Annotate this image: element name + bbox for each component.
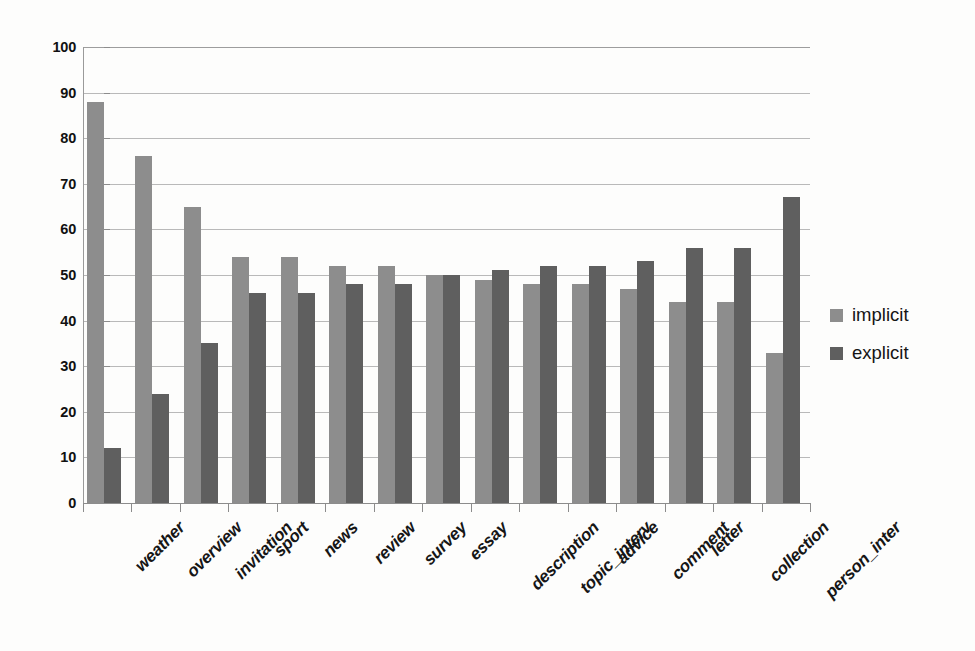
x-label-letter: letter xyxy=(706,518,748,560)
bar-group-overview xyxy=(131,47,179,503)
y-tick-label-80: 80 xyxy=(60,130,76,146)
x-tick-letter xyxy=(665,504,666,512)
legend-item-explicit[interactable]: explicit xyxy=(830,334,970,372)
x-tick-advice xyxy=(568,504,569,512)
bar-explicit-news[interactable] xyxy=(298,293,315,503)
x-label-review: review xyxy=(370,518,420,568)
y-tick-label-60: 60 xyxy=(60,221,76,237)
x-tick-review xyxy=(325,504,326,512)
bar-explicit-review[interactable] xyxy=(346,284,363,503)
bar-group-advice xyxy=(568,47,616,503)
bar-implicit-letter[interactable] xyxy=(669,302,686,503)
legend-label-explicit: explicit xyxy=(852,342,909,364)
y-tick-label-0: 0 xyxy=(68,495,76,511)
x-tick-comment xyxy=(616,504,617,512)
bar-explicit-topic_interv[interactable] xyxy=(540,266,557,503)
y-tick-label-40: 40 xyxy=(60,313,76,329)
y-tick-label-50: 50 xyxy=(60,267,76,283)
bar-implicit-news[interactable] xyxy=(281,257,298,503)
x-tick-person_inter xyxy=(762,504,763,512)
bar-group-essay xyxy=(422,47,470,503)
bar-chart: 0102030405060708090100 weatheroverviewin… xyxy=(0,0,975,651)
bar-implicit-collection[interactable] xyxy=(717,302,734,503)
bar-implicit-person_inter[interactable] xyxy=(766,353,783,503)
x-label-overview: overview xyxy=(182,518,246,582)
x-tick-sport xyxy=(228,504,229,512)
y-tick-label-30: 30 xyxy=(60,358,76,374)
x-label-survey: survey xyxy=(419,518,471,570)
y-tick-label-90: 90 xyxy=(60,85,76,101)
bar-explicit-weather[interactable] xyxy=(104,448,121,503)
bar-group-description xyxy=(471,47,519,503)
bar-group-survey xyxy=(374,47,422,503)
bar-group-weather xyxy=(83,47,131,503)
y-tick-label-100: 100 xyxy=(52,39,76,55)
bar-explicit-overview[interactable] xyxy=(152,394,169,503)
bar-implicit-essay[interactable] xyxy=(426,275,443,503)
bar-implicit-description[interactable] xyxy=(475,280,492,503)
bar-explicit-letter[interactable] xyxy=(686,248,703,503)
bar-explicit-survey[interactable] xyxy=(395,284,412,503)
bar-explicit-description[interactable] xyxy=(492,270,509,503)
x-label-sport: sport xyxy=(270,518,313,561)
bar-explicit-comment[interactable] xyxy=(637,261,654,503)
y-tick-label-10: 10 xyxy=(60,449,76,465)
bar-implicit-survey[interactable] xyxy=(378,266,395,503)
x-tick-invitation xyxy=(180,504,181,512)
x-tick-news xyxy=(277,504,278,512)
x-label-advice: advice xyxy=(613,518,663,568)
bar-implicit-review[interactable] xyxy=(329,266,346,503)
bar-group-topic_interv xyxy=(519,47,567,503)
bar-implicit-comment[interactable] xyxy=(620,289,637,503)
bar-explicit-person_inter[interactable] xyxy=(783,197,800,503)
x-tick-topic_interv xyxy=(519,504,520,512)
bar-explicit-invitation[interactable] xyxy=(201,343,218,503)
x-tick-essay xyxy=(422,504,423,512)
plot-wrapper: 0102030405060708090100 weatheroverviewin… xyxy=(0,0,975,651)
x-label-weather: weather xyxy=(131,518,189,576)
bar-explicit-sport[interactable] xyxy=(249,293,266,503)
bar-explicit-collection[interactable] xyxy=(734,248,751,503)
bar-series-layer xyxy=(83,47,810,503)
x-label-invitation: invitation xyxy=(231,518,296,583)
x-label-news: news xyxy=(319,518,362,561)
y-tick-label-70: 70 xyxy=(60,176,76,192)
x-label-topic_interv: topic_interv xyxy=(576,518,656,598)
bar-implicit-overview[interactable] xyxy=(135,156,152,503)
x-label-collection: collection xyxy=(765,518,833,586)
bar-group-letter xyxy=(665,47,713,503)
x-tick-overview xyxy=(131,504,132,512)
x-tick-survey xyxy=(374,504,375,512)
bar-explicit-essay[interactable] xyxy=(443,275,460,503)
x-label-comment: comment xyxy=(668,518,734,584)
x-tick-collection xyxy=(713,504,714,512)
legend-item-implicit[interactable]: implicit xyxy=(830,296,970,334)
y-axis-tick-labels: 0102030405060708090100 xyxy=(26,47,76,503)
x-label-essay: essay xyxy=(466,518,513,565)
legend-swatch-implicit xyxy=(830,309,843,322)
bar-group-review xyxy=(325,47,373,503)
bar-group-news xyxy=(277,47,325,503)
bar-group-person_inter xyxy=(762,47,810,503)
bar-implicit-invitation[interactable] xyxy=(184,207,201,503)
x-axis-line xyxy=(83,503,811,504)
bar-explicit-advice[interactable] xyxy=(589,266,606,503)
x-tick-weather xyxy=(83,504,84,512)
bar-implicit-weather[interactable] xyxy=(87,102,104,503)
x-tick-description xyxy=(471,504,472,512)
bar-implicit-sport[interactable] xyxy=(232,257,249,503)
y-tick-label-20: 20 xyxy=(60,404,76,420)
bar-implicit-topic_interv[interactable] xyxy=(523,284,540,503)
legend-swatch-explicit xyxy=(830,347,843,360)
bar-group-collection xyxy=(713,47,761,503)
legend-label-implicit: implicit xyxy=(852,304,909,326)
x-label-person_inter: person_inter xyxy=(821,518,905,602)
bar-group-sport xyxy=(228,47,276,503)
chart-legend: implicitexplicit xyxy=(830,296,970,372)
x-tick-end xyxy=(810,504,811,512)
bar-implicit-advice[interactable] xyxy=(572,284,589,503)
bar-group-comment xyxy=(616,47,664,503)
bar-group-invitation xyxy=(180,47,228,503)
x-label-description: description xyxy=(527,518,604,595)
